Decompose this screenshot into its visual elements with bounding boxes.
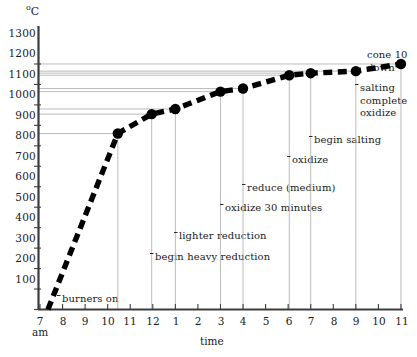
kiln-firing-temperature-chart: oC 1300 1200 1100 1000 900 800 700 600 5…: [0, 0, 417, 357]
annotation-leaders-layer: [57, 85, 359, 296]
data-point-marker: [113, 128, 123, 138]
chart-canvas: [0, 0, 417, 357]
data-point-marker: [215, 86, 225, 96]
data-point-marker: [238, 83, 248, 93]
droplines-layer: [118, 64, 401, 309]
data-point-marker: [170, 104, 180, 114]
data-point-marker: [306, 68, 316, 78]
data-point-marker: [351, 66, 361, 76]
data-point-marker: [396, 59, 406, 69]
data-point-marker: [284, 70, 294, 80]
data-series-layer: [48, 59, 406, 310]
gridlines-layer: [39, 64, 401, 134]
data-point-marker: [146, 109, 156, 119]
series-dashed-line: [48, 64, 401, 310]
